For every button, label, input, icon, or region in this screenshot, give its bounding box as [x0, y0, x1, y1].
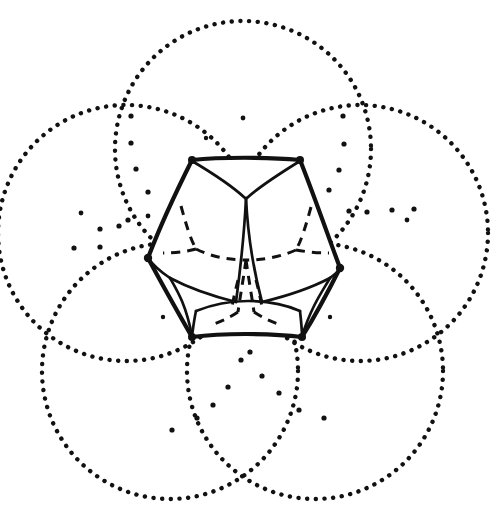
stipple-dot [169, 427, 174, 432]
stipple-dot [411, 206, 416, 211]
stipple-dot [328, 315, 332, 319]
vertex-blob [144, 254, 152, 262]
stipple-dot [389, 207, 394, 212]
illustration-svg [0, 0, 493, 513]
vertex-blob [336, 264, 344, 272]
stipple-dot [321, 415, 326, 420]
stipple-dot [128, 140, 133, 145]
stipple-dot [340, 113, 345, 118]
stipple-dot [204, 136, 208, 140]
vertex-blob [188, 156, 196, 164]
stipple-dot [346, 208, 351, 213]
stipple-dot [116, 223, 121, 228]
stipple-dot [296, 407, 301, 412]
silhouette-edge-top [192, 158, 300, 160]
stipple-dot [133, 166, 138, 171]
stipple-dot [97, 226, 102, 231]
stipple-dot [241, 116, 246, 121]
stipple-dot [71, 245, 76, 250]
stipple-dot [259, 373, 264, 378]
stipple-dot [128, 113, 133, 118]
stipple-dot [336, 167, 341, 172]
stipple-dot [146, 214, 151, 219]
stipple-dot [405, 218, 410, 223]
vertex-blob [188, 333, 196, 341]
stipple-dot [225, 384, 230, 389]
stipple-dot [194, 415, 199, 420]
stipple-dot [238, 357, 243, 362]
stipple-dot [276, 390, 281, 395]
stipple-dot [145, 189, 150, 194]
stipple-dot [247, 349, 252, 354]
stipple-dot [97, 244, 102, 249]
stipple-dot [161, 315, 165, 319]
dodecahedron [144, 156, 344, 341]
stipple-dot [210, 402, 215, 407]
vertex-blob [298, 333, 306, 341]
figure-canvas: Dodecahedron inscribed in a rosette of f… [0, 0, 493, 513]
vertex-blob [296, 156, 304, 164]
stipple-dot [125, 217, 130, 222]
stipple-dot [326, 187, 331, 192]
stipple-dot [79, 211, 84, 216]
stipple-dot [341, 141, 346, 146]
stipple-dot [364, 209, 369, 214]
silhouette-edge-bottom [192, 334, 302, 337]
